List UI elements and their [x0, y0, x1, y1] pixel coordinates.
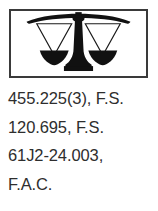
right-pan-bowl: [88, 51, 117, 66]
citation-list: 455.225(3), F.S. 120.695, F.S. 61J2-24.0…: [8, 84, 158, 198]
right-pan-triangle: [85, 24, 120, 56]
base-plinth: [64, 66, 93, 71]
scales-of-justice-icon: [11, 11, 146, 76]
citation-line: 120.695, F.S.: [8, 113, 158, 142]
scales-of-justice-frame: [9, 9, 148, 78]
left-pan-bowl: [40, 51, 69, 66]
citation-line: 455.225(3), F.S.: [8, 84, 158, 113]
citation-line: 61J2-24.003,: [8, 141, 158, 170]
page-root: 455.225(3), F.S. 120.695, F.S. 61J2-24.0…: [0, 0, 158, 211]
left-pan-triangle: [37, 24, 72, 56]
citation-line: F.A.C.: [8, 170, 158, 199]
